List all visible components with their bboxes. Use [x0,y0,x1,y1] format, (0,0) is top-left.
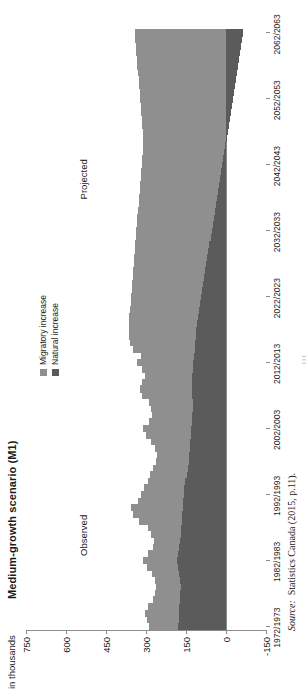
bar-segment-natural-increase [226,82,235,89]
x-axis-tick [266,164,270,165]
bar-segment-natural-increase [205,267,226,274]
bar-segment-natural-increase [198,313,226,320]
bar-segment-migratory-increase [151,438,190,445]
bar-segment-migratory-increase [135,36,226,43]
y-axis-tick [106,630,107,634]
bar-segment-natural-increase [214,214,226,221]
bar-segment-natural-increase [201,293,226,300]
y-axis-tick [146,630,147,634]
bar-segment-migratory-increase [137,56,226,63]
y-axis-tick [226,630,227,634]
bar-segment-natural-increase [226,135,227,142]
bar-segment-natural-increase [202,287,226,294]
x-axis-tick-label: 1982/1983 [272,542,282,582]
bar-segment-natural-increase [226,128,228,135]
bar-segment-migratory-increase [136,234,211,241]
bar-segment-natural-increase [191,425,226,432]
bar-segment-migratory-increase [141,109,226,116]
bar-segment-migratory-increase [142,379,192,386]
x-axis-tick-label: 2032/2033 [272,212,282,252]
chart-bar [26,616,266,623]
bar-segment-natural-increase [185,478,226,485]
bar-segment-natural-increase [224,148,226,155]
bar-segment-natural-increase [226,36,242,43]
bar-segment-natural-increase [187,471,226,478]
bar-segment-migratory-increase [149,399,193,406]
bar-segment-migratory-increase [139,82,226,89]
bar-segment-natural-increase [192,392,226,399]
chart-bar [26,115,266,122]
chart-bar [26,590,266,597]
bar-segment-natural-increase [226,49,240,56]
source-note: Source:Statistics Canada (2015, p.11). [286,473,297,631]
bar-segment-migratory-increase [142,161,223,168]
bar-segment-natural-increase [222,161,226,168]
chart-bar [26,49,266,56]
bar-segment-natural-increase [226,76,236,83]
chart-bar [26,62,266,69]
bar-segment-migratory-increase [136,43,226,50]
chart-bar [26,95,266,102]
chart-bar [26,498,266,505]
chart-bar [26,517,266,524]
bar-segment-natural-increase [179,570,226,577]
chart-bar [26,359,266,366]
chart-bar [26,577,266,584]
bar-segment-migratory-increase [137,359,194,366]
bar-segment-migratory-increase [139,76,226,83]
bar-segment-migratory-increase [131,300,200,307]
bar-segment-natural-increase [226,102,232,109]
bar-segment-natural-increase [180,577,226,584]
x-axis-tick [266,560,270,561]
x-axis-tick-label: 2012/2013 [272,344,282,384]
chart-bar [26,504,266,511]
bar-segment-natural-increase [180,596,226,603]
bar-segment-migratory-increase [148,550,178,557]
chart-bar [26,366,266,373]
chart-bar [26,524,266,531]
chart-bar [26,273,266,280]
x-axis-tick [266,32,270,33]
bar-segment-migratory-increase [141,168,221,175]
chart-bar [26,280,266,287]
chart-bar [26,43,266,50]
bar-segment-migratory-increase [140,181,219,188]
chart-bar [26,207,266,214]
bar-segment-natural-increase [178,550,226,557]
bar-segment-natural-increase [192,385,226,392]
chart-bar [26,320,266,327]
chart-bar [26,385,266,392]
bar-segment-migratory-increase [155,445,190,452]
bar-segment-migratory-increase [155,590,181,597]
bar-segment-natural-increase [218,188,226,195]
chart-bar [26,260,266,267]
bar-segment-migratory-increase [133,511,183,518]
bar-segment-migratory-increase [129,333,196,340]
chart-bar [26,583,266,590]
bar-segment-migratory-increase [156,583,181,590]
y-axis-tick-label: 450 [101,637,112,677]
bar-segment-migratory-increase [153,544,179,551]
bar-segment-migratory-increase [141,352,194,359]
bar-segment-migratory-increase [143,128,226,135]
bar-segment-natural-increase [215,207,226,214]
bar-segment-natural-increase [193,359,226,366]
chart-bar [26,102,266,109]
bar-segment-migratory-increase [156,458,189,465]
chart-bar [26,346,266,353]
bar-segment-migratory-increase [138,69,226,76]
figure-rotated-stage: in thousands Medium-growth scenario (M1)… [0,0,306,695]
bar-segment-migratory-increase [138,207,215,214]
chart-bar [26,267,266,274]
bar-segment-migratory-increase [135,240,209,247]
bar-segment-migratory-increase [136,49,226,56]
chart-bar [26,201,266,208]
legend-item-natural: Natural increase [50,295,60,376]
chart-bar [26,214,266,221]
bar-segment-migratory-increase [143,142,225,149]
chart-bar [26,544,266,551]
projected-label: Projected [78,159,89,199]
bar-segment-natural-increase [182,511,226,518]
chart-bar [26,550,266,557]
chart-bar [26,188,266,195]
